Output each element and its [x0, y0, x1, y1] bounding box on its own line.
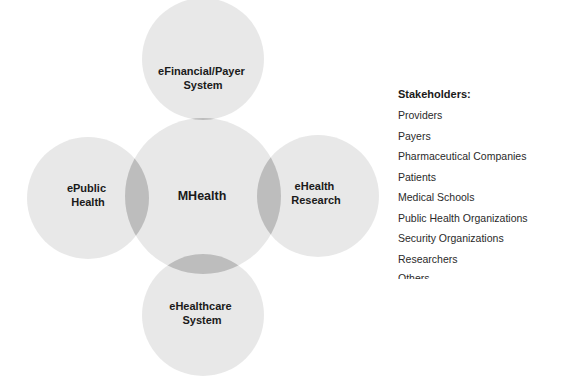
legend-item: Payers — [398, 126, 561, 147]
left-label-line-2: Health — [71, 196, 105, 208]
legend-item: Public Health Organizations — [398, 208, 561, 229]
top-label-line-1: eFinancial/Payer — [158, 65, 246, 77]
legend-item: Researchers — [398, 249, 561, 270]
venn-diagram: MHealth eFinancial/Payer System ePublic … — [0, 0, 400, 391]
legend-item: Pharmaceutical Companies — [398, 146, 561, 167]
left-label-line-1: ePublic — [67, 182, 106, 194]
bottom-label-line-2: System — [182, 314, 221, 326]
legend-item: Medical Schools — [398, 187, 561, 208]
legend-item: Security Organizations — [398, 228, 561, 249]
legend-item: Patients — [398, 167, 561, 188]
legend-item: Others — [398, 269, 561, 279]
top-label-line-2: System — [183, 79, 222, 91]
center-label: MHealth — [178, 189, 227, 203]
right-label-line-2: Research — [291, 194, 341, 206]
bottom-label-line-1: eHealthcare — [169, 300, 231, 312]
circle-top — [142, 0, 264, 120]
stakeholders-legend: Stakeholders: Providers Payers Pharmaceu… — [398, 84, 561, 279]
legend-title: Stakeholders: — [398, 84, 561, 105]
right-label-line-1: eHealth — [295, 180, 335, 192]
legend-item: Providers — [398, 105, 561, 126]
